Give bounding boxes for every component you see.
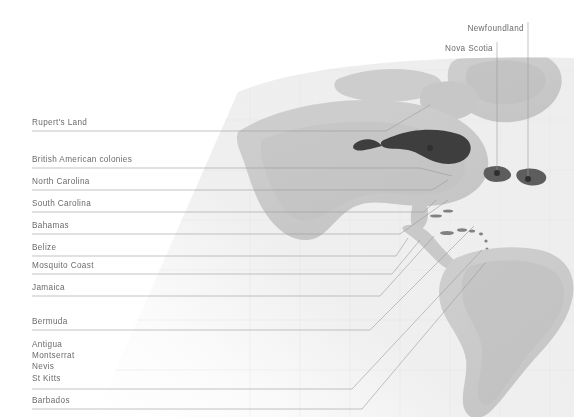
marker-hudson-bay bbox=[427, 145, 433, 151]
label-north-carolina[interactable]: North Carolina bbox=[32, 177, 90, 186]
path-barbados bbox=[32, 262, 486, 409]
label-bahamas[interactable]: Bahamas bbox=[32, 221, 69, 230]
label-barbados[interactable]: Barbados bbox=[32, 396, 70, 405]
label-ruperts-land[interactable]: Rupert's Land bbox=[32, 118, 87, 127]
label-st-kitts[interactable]: St Kitts bbox=[32, 373, 75, 384]
path-leeward-islands bbox=[32, 250, 482, 389]
path-north-carolina bbox=[32, 180, 448, 190]
path-belize bbox=[32, 238, 408, 256]
path-south-carolina bbox=[32, 200, 436, 212]
marker-nova-scotia bbox=[494, 170, 500, 176]
marker-newfoundland bbox=[525, 176, 531, 182]
label-british-american-colonies[interactable]: British American colonies bbox=[32, 155, 132, 164]
path-bermuda bbox=[32, 226, 474, 330]
label-south-carolina[interactable]: South Carolina bbox=[32, 199, 91, 208]
path-british-american-colonies bbox=[32, 168, 452, 176]
label-bermuda[interactable]: Bermuda bbox=[32, 317, 68, 326]
path-bahamas bbox=[32, 200, 448, 234]
label-montserrat[interactable]: Montserrat bbox=[32, 350, 75, 361]
label-group-leeward-islands[interactable]: Antigua Montserrat Nevis St Kitts bbox=[32, 339, 75, 384]
label-jamaica[interactable]: Jamaica bbox=[32, 283, 65, 292]
path-ruperts-land bbox=[32, 105, 430, 131]
label-newfoundland[interactable]: Newfoundland bbox=[0, 24, 524, 33]
label-nevis[interactable]: Nevis bbox=[32, 361, 75, 372]
label-belize[interactable]: Belize bbox=[32, 243, 56, 252]
label-nova-scotia[interactable]: Nova Scotia bbox=[0, 44, 493, 53]
leader-lines bbox=[0, 0, 574, 417]
label-mosquito-coast[interactable]: Mosquito Coast bbox=[32, 261, 94, 270]
label-antigua[interactable]: Antigua bbox=[32, 339, 75, 350]
figure-stage: Rupert's Land British American colonies … bbox=[0, 0, 574, 417]
